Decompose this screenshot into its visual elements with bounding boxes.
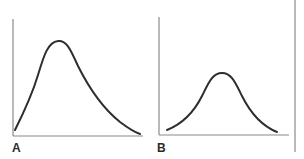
panel-a [13,19,143,136]
panel-b-curve [167,73,277,132]
panel-a-label: A [12,142,21,154]
panel-b [159,0,295,152]
panel-a-curve [15,41,140,134]
distribution-figure [0,0,304,159]
panel-b-label: B [157,142,166,154]
